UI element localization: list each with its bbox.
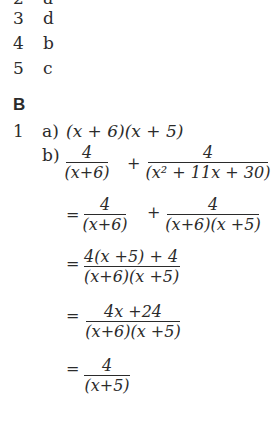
denominator: (x+6)(x +5) <box>84 267 179 286</box>
numerator: 4 <box>203 143 213 162</box>
question-number: 4 <box>13 33 24 53</box>
numerator: 4 <box>102 356 112 375</box>
answer-row: 3 d <box>13 8 24 28</box>
part-label-b: b) <box>42 145 60 165</box>
question-number: 2 <box>13 0 24 8</box>
denominator: (x+6)(x +5) <box>85 322 180 341</box>
question-number: 5 <box>13 58 24 78</box>
numerator: 4 <box>208 195 218 214</box>
denominator: (x+6)(x +5) <box>165 215 260 234</box>
fraction: 4(x +5) + 4 (x+6)(x +5) <box>84 247 180 286</box>
answer-letter: c <box>43 58 53 78</box>
equals-sign: = <box>66 255 79 273</box>
answer-row: 4 b <box>13 33 24 53</box>
fraction: 4 (x² + 11x + 30) <box>148 143 268 182</box>
answer-row: 5 c <box>13 58 24 78</box>
denominator: (x+6) <box>64 163 109 182</box>
part-label-a: a) <box>42 121 59 141</box>
answer-row: 2 a <box>13 0 24 8</box>
question-number: 3 <box>13 8 24 28</box>
plus-sign: + <box>147 204 160 222</box>
answer-letter: a <box>43 0 53 8</box>
part-a-answer: (x + 6)(x + 5) <box>66 121 183 141</box>
question-number: 1 <box>13 121 24 141</box>
numerator: 4x +24 <box>104 302 162 321</box>
numerator: 4(x +5) + 4 <box>84 247 178 266</box>
answer-letter: b <box>43 33 54 53</box>
numerator: 4 <box>82 143 92 162</box>
numerator: 4 <box>100 195 110 214</box>
section-heading: B <box>13 95 25 115</box>
fraction: 4 (x+6)(x +5) <box>167 195 259 234</box>
denominator: (x+6) <box>82 215 127 234</box>
fraction: 4x +24 (x+6)(x +5) <box>86 302 180 341</box>
denominator: (x+5) <box>84 376 129 395</box>
denominator: (x² + 11x + 30) <box>146 163 271 182</box>
equals-sign: = <box>66 206 79 224</box>
answer-letter: d <box>43 8 54 28</box>
plus-sign: + <box>127 155 140 173</box>
equals-sign: = <box>66 307 79 325</box>
fraction: 4 (x+5) <box>84 356 130 395</box>
fraction: 4 (x+6) <box>66 143 108 182</box>
fraction: 4 (x+6) <box>84 195 126 234</box>
equals-sign: = <box>66 360 79 378</box>
